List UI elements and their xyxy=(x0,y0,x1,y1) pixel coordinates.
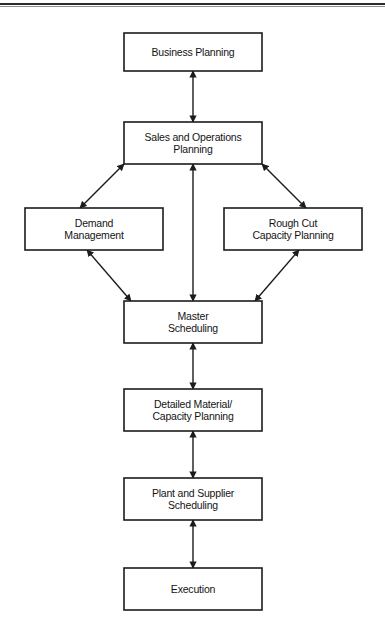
node-plant-and-supplier-scheduling[interactable]: Plant and SupplierScheduling xyxy=(124,478,262,520)
node-detailed-material-capacity-planning[interactable]: Detailed Material/Capacity Planning xyxy=(124,389,262,431)
connector-sales-and-operations-planning--rough-cut-capacity-planning xyxy=(262,164,306,208)
connector-sales-and-operations-planning--demand-management xyxy=(80,164,124,208)
node-business-planning[interactable]: Business Planning xyxy=(124,33,262,71)
node-label-demand-management: Demand xyxy=(75,217,114,229)
node-sales-and-operations-planning[interactable]: Sales and OperationsPlanning xyxy=(124,122,262,164)
node-rough-cut-capacity-planning[interactable]: Rough CutCapacity Planning xyxy=(224,208,362,250)
node-execution[interactable]: Execution xyxy=(124,568,262,610)
node-label-plant-and-supplier-scheduling: Scheduling xyxy=(168,499,218,511)
node-label-sales-and-operations-planning: Planning xyxy=(173,143,213,155)
node-label-business-planning: Business Planning xyxy=(152,46,235,58)
node-label-detailed-material-capacity-planning: Detailed Material/ xyxy=(154,398,232,410)
node-label-sales-and-operations-planning: Sales and Operations xyxy=(145,131,242,143)
node-label-rough-cut-capacity-planning: Rough Cut xyxy=(269,217,318,229)
node-label-demand-management: Management xyxy=(64,229,124,241)
node-label-master-scheduling: Master xyxy=(178,310,210,322)
node-label-master-scheduling: Scheduling xyxy=(168,322,218,334)
node-label-plant-and-supplier-scheduling: Plant and Supplier xyxy=(152,487,235,499)
figure-page: Figure: Manufacturing Planning and Contr… xyxy=(0,0,385,636)
connector-rough-cut-capacity-planning--master-scheduling xyxy=(255,250,299,301)
node-label-rough-cut-capacity-planning: Capacity Planning xyxy=(252,229,334,241)
connector-demand-management--master-scheduling xyxy=(87,250,131,301)
node-master-scheduling[interactable]: MasterScheduling xyxy=(124,301,262,343)
planning-flow-diagram: Business PlanningSales and OperationsPla… xyxy=(0,0,385,636)
node-label-detailed-material-capacity-planning: Capacity Planning xyxy=(152,410,234,422)
node-demand-management[interactable]: DemandManagement xyxy=(25,208,163,250)
node-label-execution: Execution xyxy=(171,583,216,595)
